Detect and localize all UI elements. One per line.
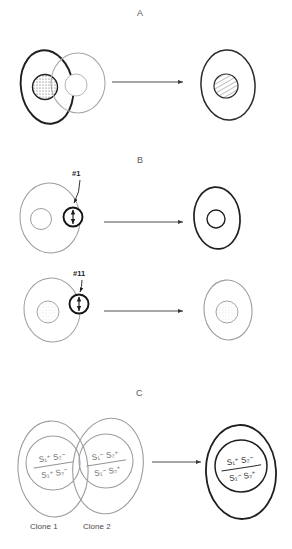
panel-b-letter: B — [137, 155, 144, 165]
panel-c-hybrid-cell: S₁⁺ S₂⁻ S₁⁻ S₂⁺ — [204, 423, 279, 521]
nucleus — [65, 74, 87, 96]
panel-c: S₁⁺ S₂⁻ S₁⁺ S₂⁻ S₁⁻ S₂⁺ S₁⁻ S₂⁺ S₁⁺ S₂⁻ — [15, 414, 279, 521]
clone-2-label: Clone 2 — [83, 522, 111, 531]
panel-a-letter: A — [137, 8, 144, 18]
nucleus — [207, 210, 225, 228]
nucleus — [216, 301, 238, 323]
nucleus — [31, 209, 52, 230]
nucleus — [37, 301, 59, 323]
clone-1-label: Clone 1 — [30, 522, 58, 531]
panel-b2-cell-result — [201, 278, 254, 342]
tag-11-pointer-arrow — [80, 280, 82, 292]
clone-2-genotype-top: S₁⁻ S₂⁺ — [91, 449, 119, 462]
panel-a-cell-fusion-product — [199, 48, 258, 122]
tag-label-11: #11 — [73, 269, 85, 278]
panel-b1-pollen-grain — [64, 208, 83, 227]
panel-b-row-1 — [17, 180, 243, 256]
panel-b-row-2 — [21, 275, 255, 345]
tag-label-1: #1 — [72, 169, 80, 178]
panel-c-letter: C — [136, 388, 143, 398]
panel-b2-pollen-grain — [70, 295, 89, 314]
panel-a — [16, 46, 258, 127]
panel-b1-cell-result — [191, 185, 242, 251]
nucleus-hatched — [214, 74, 238, 98]
figure-canvas: S₁⁺ S₂⁻ S₁⁺ S₂⁻ S₁⁻ S₂⁺ S₁⁻ S₂⁺ S₁⁺ S₂⁻ — [0, 0, 292, 549]
clone-2-genotype-bottom: S₁⁻ S₂⁺ — [94, 465, 122, 478]
